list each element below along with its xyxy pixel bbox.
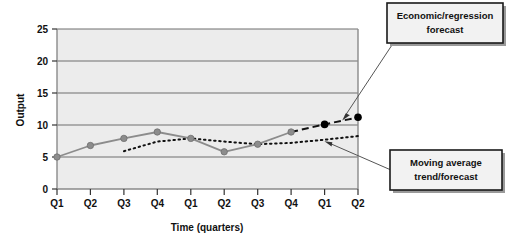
callout-line-1: Moving average (410, 157, 482, 168)
data-point-marker (154, 129, 160, 135)
chart-canvas: 25 20 15 10 5 0 Q1 Q2 Q3 Q4 Q1 Q (0, 0, 511, 249)
x-tick-label: Q4 (284, 198, 298, 209)
x-axis-ticks (57, 189, 358, 195)
y-tick-label: 5 (42, 152, 48, 163)
x-tick-label: Q4 (151, 198, 165, 209)
callout-economic-regression-forecast[interactable]: Economic/regression forecast (387, 3, 506, 46)
x-axis-tick-labels: Q1 Q2 Q3 Q4 Q1 Q2 Q3 Q4 Q1 Q2 (50, 198, 365, 209)
y-axis-ticks (52, 29, 57, 189)
plot-area-background (57, 29, 358, 189)
data-point-marker (54, 154, 60, 160)
callout-line-2: forecast (427, 24, 465, 35)
callout-line-1: Economic/regression (397, 10, 494, 21)
x-tick-label: Q2 (84, 198, 98, 209)
y-tick-label: 0 (42, 184, 48, 195)
x-tick-label: Q3 (251, 198, 265, 209)
forecast-point-marker (321, 121, 329, 129)
x-tick-label: Q2 (351, 198, 365, 209)
x-axis-title: Time (quarters) (171, 222, 244, 233)
data-point-marker (188, 135, 194, 141)
y-tick-label: 10 (37, 120, 49, 131)
x-tick-label: Q1 (50, 198, 64, 209)
chart-figure: 25 20 15 10 5 0 Q1 Q2 Q3 Q4 Q1 Q (0, 0, 511, 249)
x-tick-label: Q1 (318, 198, 332, 209)
x-tick-label: Q1 (184, 198, 198, 209)
y-tick-label: 20 (37, 56, 49, 67)
data-point-marker (121, 135, 127, 141)
forecast-point-marker (354, 114, 362, 122)
x-tick-label: Q3 (117, 198, 131, 209)
data-point-marker (288, 129, 294, 135)
y-axis-tick-labels: 25 20 15 10 5 0 (37, 24, 49, 195)
data-point-marker (87, 142, 93, 148)
callout-line-2: trend/forecast (414, 171, 478, 182)
callout-moving-average-trend-forecast[interactable]: Moving average trend/forecast (390, 150, 505, 193)
y-tick-label: 25 (37, 24, 49, 35)
y-tick-label: 15 (37, 88, 49, 99)
data-point-marker (221, 149, 227, 155)
x-tick-label: Q2 (218, 198, 232, 209)
data-point-marker (255, 141, 261, 147)
y-axis-title: Output (15, 93, 26, 126)
